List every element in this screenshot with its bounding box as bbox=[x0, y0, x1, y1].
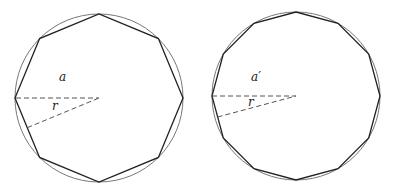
right-radius-label: r bbox=[248, 95, 255, 109]
left-apothem-label: a bbox=[59, 70, 66, 84]
right-apothem-label: a′ bbox=[251, 70, 261, 84]
left-figure: a r bbox=[15, 14, 183, 182]
right-figure: a′ r bbox=[212, 12, 380, 180]
diagram-canvas: a r a′ r bbox=[0, 0, 393, 193]
left-apothem-line bbox=[27, 98, 99, 128]
left-radius-label: r bbox=[52, 99, 59, 113]
right-apothem-line bbox=[218, 96, 296, 117]
